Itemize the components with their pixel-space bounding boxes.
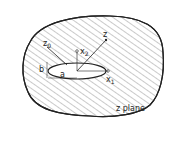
label-b: b bbox=[39, 65, 44, 74]
label-a: a bbox=[60, 70, 65, 79]
region-label: z plane bbox=[116, 104, 145, 113]
diagram-canvas: z0 z x2 x1 a b z plane bbox=[0, 0, 173, 141]
label-z: z bbox=[103, 30, 107, 39]
